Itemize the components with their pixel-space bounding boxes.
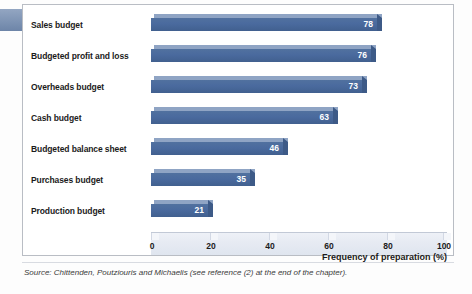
bar-value-label: 78 <box>364 19 373 29</box>
bar-body <box>151 49 371 62</box>
axis-tick <box>269 233 277 240</box>
bar-body <box>151 18 377 31</box>
bar-sales-budget: 78 <box>151 14 382 31</box>
bar-value-label: 76 <box>358 50 367 60</box>
axis-tick-label: 20 <box>200 241 222 251</box>
bar-value-label: 63 <box>320 112 329 122</box>
bar-value-label: 21 <box>195 205 204 215</box>
category-label: Purchases budget <box>31 175 149 185</box>
axis-tick-label: 60 <box>318 241 340 251</box>
bar-budgeted-balance-sheet: 46 <box>151 138 288 155</box>
page-edge-tab <box>0 9 22 31</box>
axis-tick <box>328 233 336 240</box>
source-caption: Source: Chittenden, Poutziouris and Mich… <box>24 268 347 277</box>
bar-overheads-budget: 73 <box>151 76 367 93</box>
category-label: Cash budget <box>31 113 149 123</box>
axis-tick <box>387 233 395 240</box>
x-axis-title: Frequency of preparation (%) <box>322 252 447 262</box>
bar-body <box>151 111 333 124</box>
axis-tick-label: 40 <box>259 241 281 251</box>
bar-body <box>151 80 362 93</box>
bar-body <box>151 173 250 186</box>
category-label: Overheads budget <box>31 82 149 92</box>
bar-value-label: 46 <box>270 143 279 153</box>
bar-cash-budget: 63 <box>151 107 338 124</box>
bar-production-budget: 21 <box>151 200 213 217</box>
category-label: Production budget <box>31 206 149 216</box>
caption-divider <box>22 262 454 263</box>
axis-tick-label: 80 <box>377 241 399 251</box>
category-label: Budgeted balance sheet <box>31 144 149 154</box>
bar-value-label: 73 <box>349 81 358 91</box>
figure-panel: Sales budget Budgeted profit and loss Ov… <box>22 4 454 256</box>
bar-value-label: 35 <box>237 174 246 184</box>
bar-budgeted-profit-and-loss: 76 <box>151 45 376 62</box>
scanned-page: Sales budget Budgeted profit and loss Ov… <box>0 0 472 294</box>
axis-tick <box>443 233 451 240</box>
bar-body <box>151 142 283 155</box>
axis-tick <box>151 233 159 240</box>
bar-chart: Sales budget Budgeted profit and loss Ov… <box>23 5 453 255</box>
axis-tick-label: 100 <box>433 241 455 251</box>
category-label: Budgeted profit and loss <box>31 51 149 61</box>
axis-tick-label: 0 <box>141 241 163 251</box>
axis-line <box>151 232 447 233</box>
axis-tick <box>210 233 218 240</box>
bar-purchases-budget: 35 <box>151 169 255 186</box>
category-label: Sales budget <box>31 20 149 30</box>
